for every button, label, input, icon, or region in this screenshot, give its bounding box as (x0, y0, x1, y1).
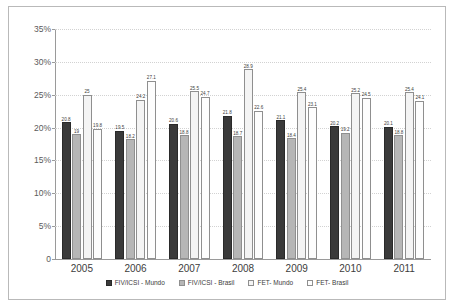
bar[interactable]: 19 (72, 134, 81, 259)
y-tick-mark (52, 259, 55, 260)
y-tick-mark (52, 226, 55, 227)
bar-value-label: 25.5 (190, 87, 199, 92)
y-tick-label: 5% (39, 221, 51, 231)
bar[interactable]: 20.8 (62, 122, 71, 259)
legend-swatch-icon (248, 280, 254, 286)
bar[interactable]: 25.4 (297, 92, 306, 259)
bar-group: 19.518.224.227.1 (109, 29, 163, 259)
bar[interactable]: 23.1 (308, 107, 317, 259)
bar-value-label: 22.6 (254, 106, 263, 111)
y-tick-mark (52, 193, 55, 194)
x-tick-label: 2010 (339, 263, 361, 274)
bar-value-label: 18.8 (180, 131, 189, 136)
x-axis-labels: 2005200620072008200920102011 (55, 263, 431, 279)
bar[interactable]: 25.5 (190, 91, 199, 259)
bar-value-label: 20.2 (330, 122, 339, 127)
x-tick-label: 2009 (286, 263, 308, 274)
bar[interactable]: 19.5 (115, 131, 124, 259)
bar-group: 21.818.728.922.6 (216, 29, 270, 259)
chart-frame: 05%10%15%20%25%30%35% 20.8192519.819.518… (8, 6, 446, 300)
bar-value-label: 25 (85, 90, 90, 95)
legend-item[interactable]: FET- Brasil (307, 279, 348, 286)
y-axis-labels: 05%10%15%20%25%30%35% (9, 29, 51, 259)
bars-layer: 20.8192519.819.518.224.227.120.618.825.5… (55, 29, 431, 259)
bar-group: 21.118.425.423.1 (270, 29, 324, 259)
bar-value-label: 20.1 (384, 122, 393, 127)
chart-legend: FIV/ICSI - MundoFIV/ICSI - BrasilFET- Mu… (9, 279, 445, 286)
bar-value-label: 24.5 (362, 93, 371, 98)
bar-value-label: 24.2 (136, 95, 145, 100)
legend-item[interactable]: FIV/ICSI - Brasil (179, 279, 235, 286)
bar[interactable]: 19.2 (341, 133, 350, 259)
y-tick-label: 30% (34, 57, 51, 67)
bar-value-label: 18.4 (287, 134, 296, 139)
y-tick-mark (52, 29, 55, 30)
y-tick-mark (52, 62, 55, 63)
x-tick-label: 2005 (71, 263, 93, 274)
bar[interactable]: 18.7 (233, 136, 242, 259)
bar-group: 20.8192519.8 (55, 29, 109, 259)
bar[interactable]: 18.4 (287, 138, 296, 259)
bar-value-label: 25.4 (297, 88, 306, 93)
bar-value-label: 24.7 (201, 92, 210, 97)
bar-value-label: 18.7 (233, 132, 242, 137)
bar-value-label: 19.2 (341, 128, 350, 133)
bar-value-label: 21.1 (276, 116, 285, 121)
bar-group: 20.219.225.224.5 (324, 29, 378, 259)
bar[interactable]: 25.2 (351, 93, 360, 259)
bar[interactable]: 24.5 (362, 98, 371, 259)
y-tick-label: 25% (34, 90, 51, 100)
bar[interactable]: 19.8 (93, 129, 102, 259)
x-axis-line (55, 259, 431, 260)
x-tick-label: 2006 (124, 263, 146, 274)
bar-value-label: 20.8 (62, 118, 71, 123)
bar-group: 20.118.825.424.1 (377, 29, 431, 259)
x-tick-label: 2007 (178, 263, 200, 274)
y-tick-mark (52, 128, 55, 129)
legend-swatch-icon (106, 280, 112, 286)
bar[interactable]: 27.1 (147, 81, 156, 259)
bar[interactable]: 18.8 (394, 135, 403, 259)
bar[interactable]: 18.8 (180, 135, 189, 259)
bar[interactable]: 21.1 (276, 120, 285, 259)
y-tick-label: 35% (34, 24, 51, 34)
bar[interactable]: 24.1 (415, 101, 424, 259)
y-tick-label: 0 (46, 254, 51, 264)
legend-label: FET- Brasil (316, 279, 348, 286)
legend-label: FET- Mundo (257, 279, 293, 286)
bar[interactable]: 20.2 (330, 126, 339, 259)
bar[interactable]: 20.1 (384, 127, 393, 259)
bar[interactable]: 22.6 (254, 111, 263, 260)
bar[interactable]: 20.6 (169, 124, 178, 259)
bar-value-label: 25.4 (405, 88, 414, 93)
bar[interactable]: 21.8 (223, 116, 232, 259)
legend-swatch-icon (307, 280, 313, 286)
y-tick-mark (52, 95, 55, 96)
bar-value-label: 19 (74, 130, 79, 135)
y-tick-label: 10% (34, 188, 51, 198)
bar[interactable]: 28.9 (244, 69, 253, 259)
bar[interactable]: 25.4 (405, 92, 414, 259)
legend-item[interactable]: FIV/ICSI - Mundo (106, 279, 165, 286)
legend-item[interactable]: FET- Mundo (248, 279, 293, 286)
x-tick-label: 2011 (393, 263, 415, 274)
bar-value-label: 28.9 (244, 65, 253, 70)
y-tick-mark (52, 160, 55, 161)
y-tick-label: 15% (34, 155, 51, 165)
bar-value-label: 24.1 (415, 96, 424, 101)
y-tick-label: 20% (34, 123, 51, 133)
bar-value-label: 23.1 (308, 103, 317, 108)
bar-value-label: 19.5 (115, 126, 124, 131)
bar-value-label: 25.2 (351, 89, 360, 94)
bar[interactable]: 25 (83, 95, 92, 259)
legend-label: FIV/ICSI - Brasil (188, 279, 235, 286)
x-tick-label: 2008 (232, 263, 254, 274)
bar-value-label: 18.2 (126, 135, 135, 140)
bar[interactable]: 18.2 (126, 139, 135, 259)
bar[interactable]: 24.2 (136, 100, 145, 259)
bar-value-label: 27.1 (147, 76, 156, 81)
legend-swatch-icon (179, 280, 185, 286)
bar[interactable]: 24.7 (201, 97, 210, 259)
bar-value-label: 21.8 (223, 111, 232, 116)
legend-label: FIV/ICSI - Mundo (115, 279, 165, 286)
